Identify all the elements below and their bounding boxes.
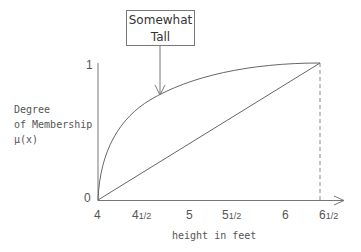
x-tick-5: 5 <box>186 208 193 222</box>
x-tick-6-half: 61/2 <box>319 208 338 222</box>
x-tick-5-half: 51/2 <box>222 208 241 222</box>
callout-box: Somewhat Tall <box>126 10 195 46</box>
ylabel-line1: Degree <box>14 104 50 115</box>
ylabel-line3: μ(x) <box>14 134 38 145</box>
linear-series <box>98 63 320 200</box>
x-tick-4-half: 41/2 <box>132 208 151 222</box>
x-tick-6: 6 <box>282 208 289 222</box>
ylabel-line2: of Membership <box>14 119 92 130</box>
y-tick-0: 0 <box>84 191 91 205</box>
y-tick-1: 1 <box>86 58 93 72</box>
x-axis-label: height in feet <box>172 230 256 241</box>
callout-line1: Somewhat <box>127 12 194 29</box>
callout-line2: Tall <box>127 29 194 46</box>
x-tick-4: 4 <box>94 208 101 222</box>
